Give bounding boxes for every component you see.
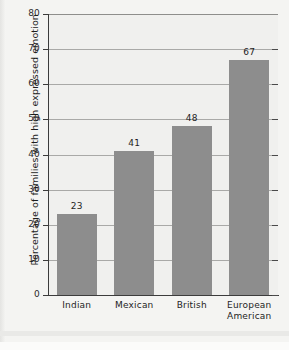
- x-axis-category-label-line: British: [163, 300, 221, 311]
- y-axis-tick: [43, 295, 48, 296]
- x-axis-category-label: Mexican: [105, 300, 163, 311]
- y-axis-tick: [43, 84, 48, 85]
- y-axis-title: Percentage of families with high express…: [29, 26, 40, 266]
- right-axis-tick: [272, 119, 278, 120]
- x-axis-category-label: EuropeanAmerican: [220, 300, 278, 322]
- x-axis-category-label: British: [163, 300, 221, 311]
- y-axis-line: [48, 14, 49, 296]
- right-axis-tick: [272, 155, 278, 156]
- y-axis-tick: [43, 155, 48, 156]
- right-axis-tick: [272, 190, 278, 191]
- y-axis-tick: [43, 49, 48, 50]
- x-axis-category-label-line: American: [220, 311, 278, 322]
- bar: [114, 151, 154, 295]
- x-axis-category-label: Indian: [48, 300, 106, 311]
- right-axis-tick: [272, 260, 278, 261]
- x-axis-category-label-line: European: [220, 300, 278, 311]
- bar: [57, 214, 97, 295]
- y-axis-tick: [43, 260, 48, 261]
- x-axis-line: [48, 295, 279, 296]
- x-axis-category-label-line: Mexican: [105, 300, 163, 311]
- right-axis-tick: [272, 49, 278, 50]
- right-axis-tick: [272, 225, 278, 226]
- y-axis-tick-label: 0: [16, 289, 40, 299]
- y-axis-tick: [43, 14, 48, 15]
- bar: [229, 60, 269, 295]
- right-axis-tick: [272, 295, 278, 296]
- figure-page: 01020304050607080 23414867 IndianMexican…: [0, 0, 289, 350]
- y-axis-tick: [43, 190, 48, 191]
- bar-value-label: 41: [114, 138, 154, 148]
- bar: [172, 126, 212, 295]
- y-axis-tick: [43, 225, 48, 226]
- x-axis-category-label-line: Indian: [48, 300, 106, 311]
- bar-value-label: 67: [229, 47, 269, 57]
- bar-value-label: 23: [57, 201, 97, 211]
- y-axis-tick: [43, 119, 48, 120]
- gridline: [48, 14, 278, 15]
- bar-chart-figure: 01020304050607080 23414867 IndianMexican…: [0, 0, 289, 350]
- bar-value-label: 48: [172, 113, 212, 123]
- right-axis-tick: [272, 84, 278, 85]
